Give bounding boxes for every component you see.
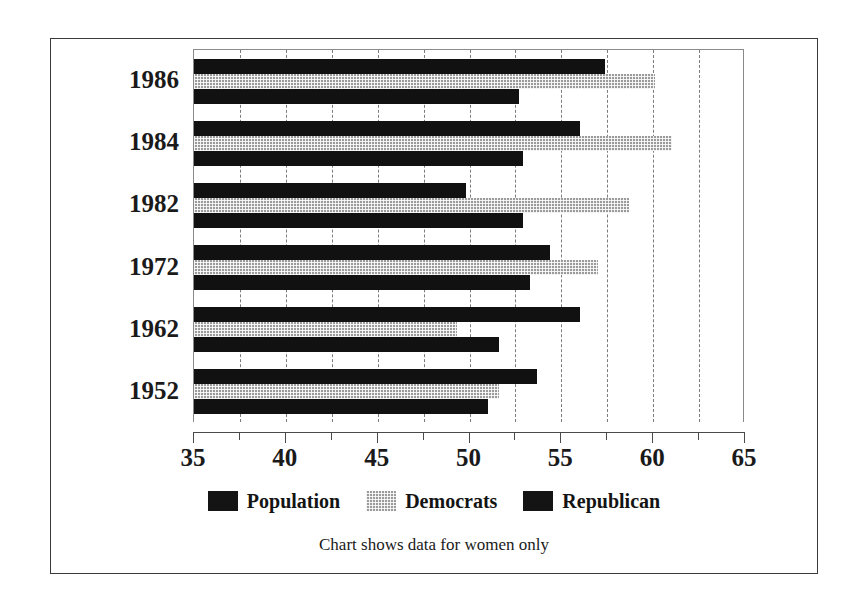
y-axis-label-1952: 1952	[59, 378, 179, 403]
legend-swatch-republican	[523, 491, 553, 511]
bar-republican-1982	[194, 213, 523, 228]
bar-democrats-1972	[194, 260, 598, 275]
gridline	[286, 50, 287, 422]
bar-group-1972	[194, 245, 743, 290]
bar-group-1982	[194, 183, 743, 228]
legend-label-republican: Republican	[562, 491, 660, 511]
x-tick-35	[193, 432, 194, 443]
legend-label-population: Population	[247, 491, 340, 511]
legend-item-population[interactable]: Population	[208, 491, 340, 511]
x-tick-65	[744, 432, 745, 443]
x-tick-42.5	[331, 432, 332, 440]
bar-democrats-1984	[194, 136, 672, 151]
bar-population-1962	[194, 307, 580, 322]
x-tick-60	[652, 432, 653, 443]
legend-swatch-democrats	[366, 491, 396, 511]
gridline	[332, 50, 333, 422]
x-tick-50	[469, 432, 470, 443]
x-tick-47.5	[423, 432, 424, 440]
y-axis-label-1962: 1962	[59, 316, 179, 341]
gridline	[653, 50, 654, 422]
y-axis-label-1986: 1986	[59, 67, 179, 92]
gridline	[378, 50, 379, 422]
x-tick-label-55: 55	[525, 445, 595, 470]
legend-label-democrats: Democrats	[405, 491, 497, 511]
y-axis-label-1982: 1982	[59, 191, 179, 216]
bar-population-1982	[194, 183, 466, 198]
chart-caption: Chart shows data for women only	[51, 535, 817, 555]
x-tick-62.5	[698, 432, 699, 440]
gridline	[607, 50, 608, 422]
bar-democrats-1962	[194, 322, 457, 337]
x-tick-45	[377, 432, 378, 443]
x-tick-label-65: 65	[709, 445, 779, 470]
x-tick-label-60: 60	[617, 445, 687, 470]
bar-republican-1962	[194, 337, 499, 352]
x-tick-55	[560, 432, 561, 443]
bar-republican-1972	[194, 275, 530, 290]
bar-group-1952	[194, 369, 743, 414]
bar-democrats-1952	[194, 384, 499, 399]
bar-population-1972	[194, 245, 550, 260]
legend-swatch-population	[208, 491, 238, 511]
bar-group-1962	[194, 307, 743, 352]
x-tick-label-50: 50	[434, 445, 504, 470]
chart-figure: 198619841982197219621952 35404550556065 …	[50, 38, 818, 574]
legend-item-democrats[interactable]: Democrats	[366, 491, 497, 511]
x-tick-57.5	[606, 432, 607, 440]
chart-legend: PopulationDemocratsRepublican	[51, 491, 817, 511]
x-tick-label-45: 45	[342, 445, 412, 470]
y-axis-label-1972: 1972	[59, 254, 179, 279]
y-axis-category-labels: 198619841982197219621952	[51, 49, 179, 422]
bar-population-1984	[194, 121, 580, 136]
gridline	[424, 50, 425, 422]
x-tick-40	[285, 432, 286, 443]
bar-republican-1986	[194, 89, 519, 104]
gridline	[515, 50, 516, 422]
bar-population-1952	[194, 369, 537, 384]
bar-democrats-1982	[194, 198, 629, 213]
gridline	[561, 50, 562, 422]
legend-item-republican[interactable]: Republican	[523, 491, 660, 511]
bar-republican-1984	[194, 151, 523, 166]
x-tick-52.5	[514, 432, 515, 440]
bar-republican-1952	[194, 399, 488, 414]
gridline	[470, 50, 471, 422]
x-tick-label-35: 35	[158, 445, 228, 470]
y-axis-label-1984: 1984	[59, 129, 179, 154]
plot-area	[193, 49, 744, 422]
bar-group-1984	[194, 121, 743, 166]
gridline	[240, 50, 241, 422]
x-tick-label-40: 40	[250, 445, 320, 470]
bar-group-1986	[194, 59, 743, 104]
bar-democrats-1986	[194, 74, 655, 89]
x-tick-37.5	[239, 432, 240, 440]
bar-population-1986	[194, 59, 605, 74]
gridline	[699, 50, 700, 422]
